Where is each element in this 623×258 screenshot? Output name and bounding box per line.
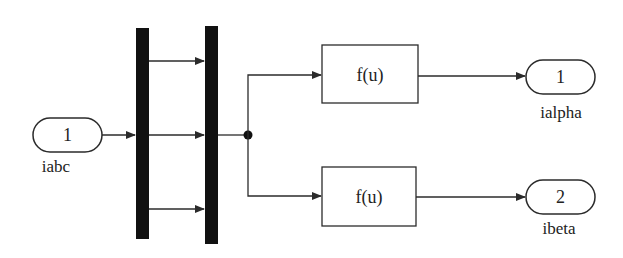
inport-label: iabc (42, 157, 71, 176)
outport-number: 1 (556, 67, 565, 87)
fcn-expression: f(u) (356, 187, 383, 208)
mux-block[interactable] (205, 26, 218, 244)
outport-label: ialpha (540, 103, 582, 122)
outport-label: ibeta (542, 219, 575, 238)
block-diagram-canvas: 1 iabc f(u) f(u) 1 ialpha 2 ibeta (0, 0, 623, 258)
fcn-block-1[interactable]: f(u) (322, 45, 418, 103)
outport-ibeta[interactable]: 2 ibeta (526, 180, 595, 238)
inport-iabc[interactable]: 1 iabc (33, 118, 102, 176)
demux-block[interactable] (136, 28, 149, 239)
outport-ialpha[interactable]: 1 ialpha (526, 60, 595, 122)
signal-line-to-fcn1[interactable] (248, 75, 321, 135)
fcn-expression: f(u) (357, 65, 384, 86)
signal-line-to-fcn2[interactable] (248, 135, 321, 196)
outport-number: 2 (556, 187, 565, 207)
inport-number: 1 (63, 125, 72, 145)
fcn-block-2[interactable]: f(u) (322, 167, 416, 226)
